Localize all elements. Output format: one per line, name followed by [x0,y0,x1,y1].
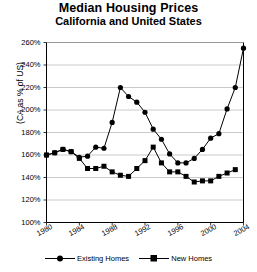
legend-item-existing-homes: Existing Homes [45,253,129,263]
chart-container: Median Housing Prices California and Uni… [0,0,257,272]
y-tick-label: 220% [5,83,41,92]
y-tick-label: 260% [5,38,41,47]
y-tick-label: 120% [5,195,41,204]
y-tick-label: 240% [5,60,41,69]
series-new-homes [44,145,238,185]
legend-item-new-homes: New Homes [139,253,212,263]
gridlines [47,43,244,201]
y-tick-label: 160% [5,150,41,159]
legend-label-existing-homes: Existing Homes [77,254,129,263]
series-existing-homes [44,46,246,166]
y-tick-label: 200% [5,105,41,114]
square-marker-icon [139,254,169,263]
series-layer [44,46,246,185]
chart-legend: Existing Homes New Homes [0,253,257,263]
legend-label-new-homes: New Homes [171,254,212,263]
y-tick-label: 180% [5,128,41,137]
circle-marker-icon [45,254,75,263]
y-tick-label: 100% [5,218,41,227]
y-tick-label: 140% [5,173,41,182]
